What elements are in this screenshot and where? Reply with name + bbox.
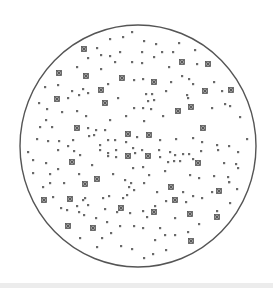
small-particle [211, 107, 213, 109]
small-particle [60, 207, 62, 209]
small-particle [116, 211, 118, 213]
particle-field [0, 0, 273, 288]
small-particle [198, 223, 200, 225]
small-particle [143, 257, 145, 259]
small-particle [106, 221, 108, 223]
small-particle [142, 78, 144, 80]
small-particle [216, 144, 218, 146]
small-particle [165, 249, 167, 251]
small-particle [165, 90, 167, 92]
small-particle [57, 168, 59, 170]
small-particle [32, 172, 34, 174]
small-particle [239, 116, 241, 118]
large-particles [42, 47, 234, 244]
small-particle [187, 231, 189, 233]
large-particle [99, 88, 104, 93]
small-particle [27, 151, 29, 153]
small-particle [78, 173, 80, 175]
small-particle [88, 135, 90, 137]
large-particle [196, 161, 201, 166]
small-particle [192, 195, 194, 197]
small-particle [159, 156, 161, 158]
small-particle [141, 51, 143, 53]
small-particle [133, 189, 135, 191]
small-particle [194, 49, 196, 51]
large-particle [189, 239, 194, 244]
small-particle [107, 152, 109, 154]
small-particle [213, 81, 215, 83]
small-particle [172, 51, 174, 53]
small-particles [27, 31, 248, 259]
small-particle [117, 97, 119, 99]
small-particle [63, 182, 65, 184]
small-particle [108, 195, 110, 197]
small-particle [95, 217, 97, 219]
small-particle [167, 161, 169, 163]
small-particle [158, 149, 160, 151]
small-particle [161, 51, 163, 53]
small-particle [146, 216, 148, 218]
small-particle [124, 179, 126, 181]
large-particle [215, 215, 220, 220]
small-particle [38, 102, 40, 104]
large-particle [120, 76, 125, 81]
small-particle [216, 210, 218, 212]
small-particle [179, 160, 181, 162]
large-particle [42, 198, 47, 203]
small-particle [119, 51, 121, 53]
large-particle [68, 197, 73, 202]
large-particle [201, 126, 206, 131]
small-particle [201, 141, 203, 143]
small-particle [141, 62, 143, 64]
large-particle [176, 109, 181, 114]
large-particle [180, 60, 185, 65]
small-particle [109, 55, 111, 57]
small-particle [125, 115, 127, 117]
large-particle [57, 71, 62, 76]
small-particle [83, 214, 85, 216]
small-particle [143, 40, 145, 42]
small-particle [110, 232, 112, 234]
small-particle [151, 93, 153, 95]
small-particle [182, 153, 184, 155]
small-particle [192, 137, 194, 139]
large-particle [188, 212, 193, 217]
large-particle [103, 101, 108, 106]
small-particle [67, 145, 69, 147]
large-particle [84, 74, 89, 79]
particle-diagram [0, 0, 273, 288]
small-particle [128, 186, 130, 188]
small-particle [174, 217, 176, 219]
small-particle [100, 54, 102, 56]
small-particle [109, 38, 111, 40]
small-particle [152, 253, 154, 255]
small-particle [178, 42, 180, 44]
small-particle [153, 99, 155, 101]
small-particle [112, 173, 114, 175]
small-particle [198, 177, 200, 179]
small-particle [32, 159, 34, 161]
small-particle [174, 154, 176, 156]
small-particle [95, 129, 97, 131]
small-particle [102, 197, 104, 199]
small-particle [125, 141, 127, 143]
small-particle [87, 204, 89, 206]
small-particle [76, 66, 78, 68]
small-particle [122, 197, 124, 199]
small-particle [133, 107, 135, 109]
small-particle [107, 139, 109, 141]
small-particle [133, 79, 135, 81]
small-particle [186, 94, 188, 96]
small-particle [142, 210, 144, 212]
small-particle [87, 127, 89, 129]
small-particle [223, 162, 225, 164]
large-particle [147, 133, 152, 138]
large-particle [91, 226, 96, 231]
small-particle [99, 144, 101, 146]
small-particle [120, 245, 122, 247]
small-particle [168, 66, 170, 68]
small-particle [170, 81, 172, 83]
small-particle [200, 150, 202, 152]
small-particle [44, 86, 46, 88]
small-particle [57, 149, 59, 151]
